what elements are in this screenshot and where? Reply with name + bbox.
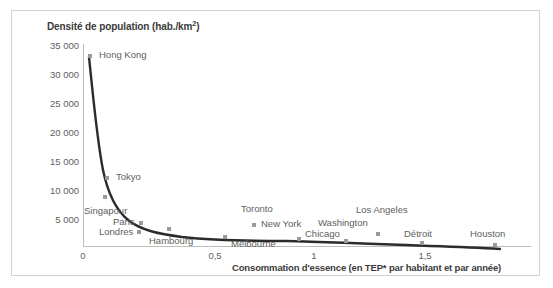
data-point-new-york[interactable]	[252, 223, 256, 227]
x-axis-title: Consommation d'essence (en TEP* par habi…	[232, 262, 501, 273]
point-label-detroit: Détroit	[404, 228, 432, 239]
point-label-new-york: New York	[261, 218, 301, 229]
point-label-toronto: Toronto	[241, 203, 273, 214]
point-label-melbourne: Melbourne	[231, 238, 276, 249]
point-label-los-angeles: Los Angeles	[356, 204, 408, 215]
point-label-houston: Houston	[470, 228, 505, 239]
data-point-melbourne[interactable]	[223, 235, 227, 239]
chart-screenshot: Densité de population (hab./km2) 35 000 …	[0, 0, 553, 288]
data-point-londres[interactable]	[137, 230, 141, 234]
point-label-hong-kong: Hong Kong	[99, 49, 147, 60]
data-point-paris[interactable]	[139, 221, 143, 225]
data-point-los-angeles[interactable]	[376, 232, 380, 236]
point-label-hambourg: Hambourg	[149, 235, 193, 246]
point-label-londres: Londres	[99, 226, 133, 237]
point-label-tokyo: Tokyo	[116, 171, 141, 182]
point-label-singapour: Singapour	[84, 205, 127, 216]
data-point-singapour[interactable]	[103, 195, 107, 199]
point-label-chicago: Chicago	[305, 228, 340, 239]
data-point-detroit[interactable]	[420, 241, 424, 245]
data-point-tokyo[interactable]	[105, 176, 109, 180]
point-label-washington: Washington	[318, 217, 368, 228]
data-point-hong-kong[interactable]	[88, 54, 92, 58]
data-point-washington[interactable]	[344, 239, 348, 243]
trend-curve	[0, 0, 553, 288]
data-point-hambourg[interactable]	[167, 227, 171, 231]
data-point-chicago[interactable]	[297, 237, 301, 241]
data-point-houston[interactable]	[493, 243, 497, 247]
